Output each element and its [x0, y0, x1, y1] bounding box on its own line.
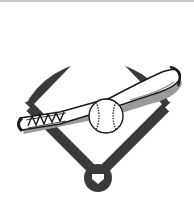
- baseball-clipart: [0, 0, 194, 206]
- second-base-icon: [91, 23, 105, 37]
- baseball-icon: [89, 99, 123, 133]
- home-plate-icon: [84, 164, 112, 192]
